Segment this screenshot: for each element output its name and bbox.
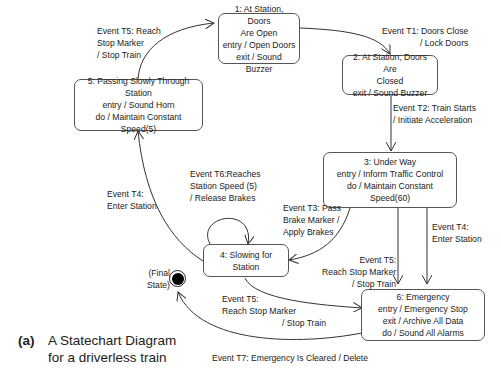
state-title-cont: Are Open [222,27,296,39]
transition-label-t5-5to1: Event T5: Reach Stop Marker / Stop Train [97,25,161,61]
state-title: 2: At Station, Doors Are [346,51,434,75]
transition-label-t6: Event T6:Reaches Station Speed (5) / Rel… [190,168,261,204]
state-4-slowing-for-station[interactable]: 4: Slowing for Station [203,244,289,277]
transition-label-t7: Event T7: Emergency Is Cleared / Delete [212,352,368,364]
transition-label-t5-4to6: Event T5: Reach Stop Marker / Stop Train [222,293,326,329]
state-title: 1: At Station, Doors [222,3,296,27]
transition-label-t3: Event T3: Pass Brake Marker / Apply Brak… [283,202,341,238]
state-exit-action: exit / Sound Buzzer [222,51,296,75]
transition-label-t2: Event T2: Train Starts / Initiate Accele… [393,102,476,126]
state-title: 3: Under Way [327,156,453,168]
state-3-under-way[interactable]: 3: Under Way entry / Inform Traffic Cont… [323,152,457,208]
state-title-cont: Station [78,87,199,99]
state-do-activity: do / Maintain Constant Speed(60) [327,180,453,204]
final-state-node[interactable] [169,270,186,287]
state-5-passing-slowly-through-station[interactable]: 5: Passing Slowly Through Station entry … [74,79,203,131]
state-title: 5: Passing Slowly Through [78,75,199,87]
state-title-cont: Closed [346,75,434,87]
transition-label-t5-3to6: Event T5: Reach Stop Marker / Stop Train [322,254,396,290]
state-do-activity: do / Maintain Constant Speed(5) [78,111,199,135]
caption-text: A Statechart Diagram for a driverless tr… [48,332,176,366]
state-exit-action: exit / Sound Buzzer [346,87,434,99]
final-state-dot [172,273,184,285]
state-entry-action: entry / Inform Traffic Control [327,168,453,180]
state-title: 4: Slowing for Station [207,249,285,273]
final-state-label: (Final State) [147,267,170,291]
transition-label-t1: Event T1: Doors Close / Lock Doors [382,25,468,49]
caption-tag: (a) [18,332,35,349]
transition-label-t4-4to5: Event T4: Enter Station [107,188,157,212]
state-title: 6: Emergency [365,291,481,303]
state-6-emergency[interactable]: 6: Emergency entry / Emergency Stop exit… [361,289,485,341]
state-1-at-station-doors-open[interactable]: 1: At Station, Doors Are Open entry / Op… [218,13,300,64]
state-entry-action: entry / Emergency Stop [365,303,481,315]
state-2-at-station-doors-closed[interactable]: 2: At Station, Doors Are Closed exit / S… [342,55,438,95]
state-entry-action: entry / Sound Horn [78,99,199,111]
state-do-activity: do / Sound All Alarms [365,327,481,339]
transition-label-t4-3to6: Event T4: Enter Station [432,221,482,245]
state-entry-action: entry / Open Doors [222,39,296,51]
state-exit-action: exit / Archive All Data [365,315,481,327]
